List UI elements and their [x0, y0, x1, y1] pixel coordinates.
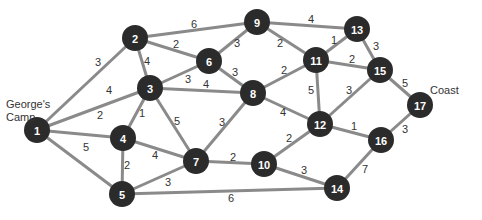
node-7: 7 — [183, 148, 209, 174]
node-label: 1 — [34, 125, 40, 137]
edge-1-2 — [37, 38, 135, 130]
node-label: 4 — [120, 133, 127, 145]
edge-weight-7-8: 3 — [219, 116, 225, 128]
node-label: 5 — [119, 189, 125, 201]
edge-weight-11-15: 2 — [349, 53, 355, 65]
node-label: 6 — [206, 56, 212, 68]
edge-weight-12-10: 2 — [286, 132, 292, 144]
node-label: 7 — [193, 156, 199, 168]
node-14: 14 — [324, 175, 350, 201]
node-label: 15 — [374, 65, 386, 77]
start-label-line2: Camp — [6, 111, 50, 124]
edge-weight-16-17: 3 — [402, 123, 408, 135]
node-6: 6 — [196, 48, 222, 74]
edge-weight-11-12: 5 — [308, 84, 314, 96]
node-11: 11 — [303, 47, 329, 73]
edge-weight-3-8: 4 — [203, 78, 209, 90]
edge-weight-12-15: 3 — [346, 84, 352, 96]
edge-weight-5-7: 3 — [165, 176, 171, 188]
edge-weight-13-15: 3 — [373, 40, 379, 52]
edge-weight-7-10: 2 — [230, 151, 236, 163]
node-label: 17 — [414, 100, 426, 112]
node-8: 8 — [240, 80, 266, 106]
edge-weight-8-11: 2 — [281, 64, 287, 76]
node-label: 12 — [314, 119, 326, 131]
node-16: 16 — [368, 127, 394, 153]
node-15: 15 — [367, 57, 393, 83]
node-label: 13 — [351, 24, 363, 36]
edge-weight-5-14: 6 — [228, 192, 234, 204]
edge-weight-1-2: 3 — [95, 56, 101, 68]
node-12: 12 — [307, 111, 333, 137]
edge-weight-2-6: 2 — [173, 38, 179, 50]
edge-weight-6-9: 3 — [234, 37, 240, 49]
edge-weight-1-4: 2 — [97, 109, 103, 121]
nodes-layer: 1234567891011121314151617 — [24, 9, 433, 207]
edge-weight-8-12: 4 — [280, 106, 286, 118]
edge-weight-3-6: 3 — [185, 73, 191, 85]
edge-3-8 — [150, 88, 253, 93]
edge-weight-1-3: 4 — [106, 84, 112, 96]
node-2: 2 — [122, 25, 148, 51]
node-label: 8 — [250, 88, 256, 100]
node-10: 10 — [251, 151, 277, 177]
edge-weight-9-13: 4 — [308, 13, 314, 25]
graph-diagram: 3425426341542363332244212531233537 12345… — [0, 0, 482, 220]
node-3: 3 — [137, 75, 163, 101]
node-label: 11 — [310, 55, 322, 67]
edge-weight-4-5: 2 — [124, 159, 130, 171]
node-label: 10 — [258, 159, 270, 171]
node-label: 14 — [331, 183, 344, 195]
edge-weight-15-17: 5 — [402, 77, 408, 89]
edge-1-5 — [37, 130, 122, 194]
node-label: 3 — [147, 83, 153, 95]
edge-weight-14-16: 7 — [362, 163, 368, 175]
node-4: 4 — [110, 125, 136, 151]
node-label: 16 — [375, 135, 387, 147]
edge-weight-12-16: 1 — [351, 120, 357, 132]
node-5: 5 — [109, 181, 135, 207]
edge-weight-3-4: 1 — [139, 107, 145, 119]
edge-1-3 — [37, 88, 150, 130]
edge-weight-6-8: 3 — [232, 66, 238, 78]
start-label: George's Camp — [6, 98, 50, 124]
start-label-line1: George's — [6, 98, 50, 111]
edge-weight-3-7: 5 — [174, 115, 180, 127]
node-label: 2 — [132, 33, 138, 45]
node-9: 9 — [244, 9, 270, 35]
edge-weight-11-13: 1 — [331, 34, 337, 46]
end-label: Coast — [430, 84, 459, 97]
edge-weight-2-3: 4 — [144, 55, 150, 67]
node-13: 13 — [344, 16, 370, 42]
node-label: 9 — [254, 17, 260, 29]
edge-weight-4-7: 4 — [152, 149, 158, 161]
edge-weight-1-5: 5 — [83, 141, 89, 153]
edge-weight-2-9: 6 — [191, 18, 197, 30]
edge-weight-10-14: 3 — [301, 164, 307, 176]
edge-weight-9-11: 2 — [277, 37, 283, 49]
